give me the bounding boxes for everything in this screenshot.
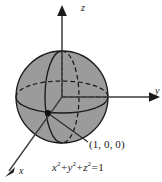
point-coordinate-label: (1, 0, 0) xyxy=(89,139,125,150)
sphere-diagram-svg xyxy=(0,0,162,182)
y-axis-label: y xyxy=(155,86,159,96)
sphere-figure: z y x (1, 0, 0) x2+y2+z2=1 xyxy=(0,0,162,182)
equation-rhs: 1 xyxy=(98,161,104,173)
point-1-0-0-dot xyxy=(45,110,51,116)
equation-plus-1: + xyxy=(60,161,67,173)
z-axis-label: z xyxy=(81,3,85,13)
sphere-equation: x2+y2+z2=1 xyxy=(52,162,104,173)
x-axis-label: x xyxy=(19,166,23,176)
z-axis-arrowhead xyxy=(57,5,67,16)
